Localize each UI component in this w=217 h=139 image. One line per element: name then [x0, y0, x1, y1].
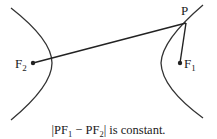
hyperbola-diagram: P F2 F1 |PF1 − PF2| is constant. — [0, 0, 217, 139]
right-branch — [161, 5, 203, 118]
focus-F1-label: F1 — [184, 57, 196, 73]
point-P-text: P — [181, 3, 188, 18]
focus-F1-sub: 1 — [191, 63, 196, 73]
segment-PF2 — [33, 23, 186, 63]
focus-F1-dot — [178, 61, 182, 65]
focus-F2-sub: 2 — [22, 63, 27, 73]
caption-minus: − PF — [72, 123, 99, 137]
caption-open: |PF — [52, 123, 68, 137]
focus-F2-dot — [31, 61, 35, 65]
focus-F2-label: F2 — [15, 57, 27, 73]
caption: |PF1 − PF2| is constant. — [0, 124, 217, 139]
point-P-label: P — [181, 4, 188, 17]
caption-close: | is constant. — [104, 123, 166, 137]
